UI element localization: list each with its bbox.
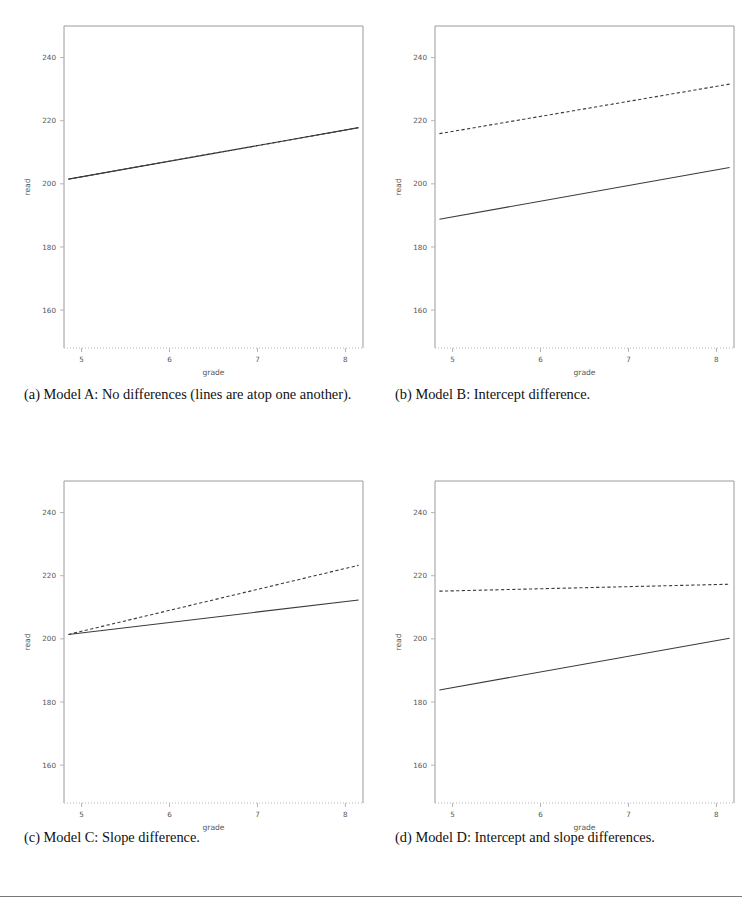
series-line-dashed bbox=[439, 84, 729, 134]
x-tick-label: 6 bbox=[167, 810, 172, 819]
y-axis-title: read bbox=[394, 178, 403, 195]
x-tick-label: 7 bbox=[626, 810, 631, 819]
caption-a: (a) Model A: No differences (lines are a… bbox=[24, 384, 354, 405]
plot-frame bbox=[64, 481, 363, 803]
plot-a: 1601802002202405678graderead bbox=[0, 0, 371, 385]
subfigure-c: 1601802002202405678graderead (c) Model C… bbox=[0, 455, 371, 840]
y-tick-label: 240 bbox=[413, 53, 427, 62]
series-line-solid bbox=[68, 600, 358, 634]
y-tick-label: 240 bbox=[42, 53, 56, 62]
x-tick-label: 8 bbox=[714, 810, 719, 819]
x-axis-title: grade bbox=[202, 368, 224, 377]
x-tick-label: 8 bbox=[343, 810, 348, 819]
y-tick-label: 200 bbox=[42, 179, 56, 188]
x-axis-title: grade bbox=[573, 368, 595, 377]
y-tick-label: 240 bbox=[413, 508, 427, 517]
subfigure-b: 1601802002202405678graderead (b) Model B… bbox=[371, 0, 742, 385]
series-line-dashed bbox=[68, 565, 358, 634]
y-tick-label: 180 bbox=[413, 698, 427, 707]
x-tick-label: 7 bbox=[255, 810, 260, 819]
y-tick-label: 220 bbox=[413, 571, 427, 580]
y-tick-label: 240 bbox=[42, 508, 56, 517]
x-tick-label: 6 bbox=[538, 355, 543, 364]
y-tick-label: 160 bbox=[42, 306, 56, 315]
series-line-solid bbox=[439, 638, 729, 690]
x-tick-label: 5 bbox=[79, 810, 84, 819]
x-tick-label: 5 bbox=[450, 355, 455, 364]
y-axis-title: read bbox=[23, 633, 32, 650]
plot-frame bbox=[435, 26, 734, 348]
x-tick-label: 5 bbox=[79, 355, 84, 364]
y-tick-label: 220 bbox=[42, 116, 56, 125]
series-line-dashed bbox=[439, 584, 729, 591]
series-line-solid bbox=[439, 167, 729, 219]
subfigure-a: 1601802002202405678graderead (a) Model A… bbox=[0, 0, 371, 385]
y-tick-label: 160 bbox=[42, 761, 56, 770]
y-tick-label: 160 bbox=[413, 761, 427, 770]
y-tick-label: 160 bbox=[413, 306, 427, 315]
y-tick-label: 200 bbox=[413, 179, 427, 188]
y-tick-label: 180 bbox=[42, 243, 56, 252]
x-tick-label: 5 bbox=[450, 810, 455, 819]
figure-grid: 1601802002202405678graderead (a) Model A… bbox=[0, 0, 742, 890]
x-tick-label: 8 bbox=[343, 355, 348, 364]
bottom-horizontal-rule bbox=[0, 896, 742, 897]
plot-frame bbox=[435, 481, 734, 803]
subfigure-d: 1601802002202405678graderead (d) Model D… bbox=[371, 455, 742, 840]
plot-b: 1601802002202405678graderead bbox=[371, 0, 742, 385]
plot-c: 1601802002202405678graderead bbox=[0, 455, 371, 840]
y-axis-title: read bbox=[23, 178, 32, 195]
y-tick-label: 180 bbox=[413, 243, 427, 252]
plot-d-svg: 1601802002202405678graderead bbox=[371, 455, 742, 840]
figure-page: 1601802002202405678graderead (a) Model A… bbox=[0, 0, 742, 909]
y-tick-label: 200 bbox=[42, 634, 56, 643]
x-tick-label: 7 bbox=[626, 355, 631, 364]
x-tick-label: 6 bbox=[538, 810, 543, 819]
y-tick-label: 220 bbox=[42, 571, 56, 580]
y-axis-title: read bbox=[394, 633, 403, 650]
y-tick-label: 180 bbox=[42, 698, 56, 707]
caption-c: (c) Model C: Slope difference. bbox=[24, 827, 354, 848]
y-tick-label: 220 bbox=[413, 116, 427, 125]
x-tick-label: 6 bbox=[167, 355, 172, 364]
caption-b: (b) Model B: Intercept difference. bbox=[395, 384, 725, 405]
plot-d: 1601802002202405678graderead bbox=[371, 455, 742, 840]
x-tick-label: 7 bbox=[255, 355, 260, 364]
plot-a-svg: 1601802002202405678graderead bbox=[0, 0, 371, 385]
x-tick-label: 8 bbox=[714, 355, 719, 364]
y-tick-label: 200 bbox=[413, 634, 427, 643]
plot-b-svg: 1601802002202405678graderead bbox=[371, 0, 742, 385]
plot-frame bbox=[64, 26, 363, 348]
plot-c-svg: 1601802002202405678graderead bbox=[0, 455, 371, 840]
caption-d: (d) Model D: Intercept and slope differe… bbox=[395, 827, 725, 848]
